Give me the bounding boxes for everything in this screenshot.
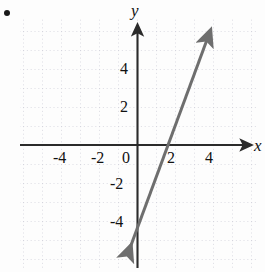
y-axis-label: y [131,2,139,19]
y-tick-label-neg2: -2 [110,176,123,192]
y-tick-label-neg4: -4 [110,214,123,230]
coordinate-plane [0,0,265,272]
y-tick-label-pos2: 2 [120,99,128,115]
origin-label: 0 [122,150,130,166]
y-tick-label-pos4: 4 [120,61,128,77]
x-tick-label-neg4: -4 [53,150,66,166]
x-tick-label-pos4: 4 [205,150,213,166]
x-axis-label: x [254,137,262,154]
graph-figure: -4 -2 0 2 4 4 2 -2 -4 y x [0,0,265,272]
x-tick-label-neg2: -2 [91,150,104,166]
x-tick-label-pos2: 2 [167,150,175,166]
